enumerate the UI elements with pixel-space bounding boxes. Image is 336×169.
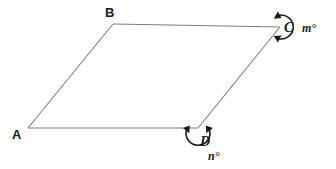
- geometry-diagram: A B C D m° n°: [0, 0, 336, 169]
- vertex-label-b: B: [105, 5, 114, 20]
- edge-a-b: [28, 24, 113, 128]
- vertex-label-d: D: [199, 134, 210, 149]
- parallelogram-outline: [28, 24, 280, 128]
- vertex-label-a: A: [12, 127, 22, 142]
- angle-label-n: n°: [208, 149, 220, 163]
- edge-b-c: [113, 24, 280, 27]
- angle-label-m: m°: [302, 21, 316, 35]
- diagram-canvas: A B C D m° n°: [0, 0, 336, 169]
- edge-c-d: [198, 27, 280, 128]
- vertex-label-c: C: [284, 20, 294, 35]
